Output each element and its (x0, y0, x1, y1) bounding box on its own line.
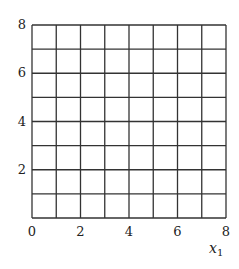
x-tick-label: 4 (125, 224, 133, 239)
y-tick-label: 6 (18, 65, 26, 80)
x-tick-label: 2 (76, 224, 84, 239)
y-axis-ticks: 2468 (18, 17, 26, 177)
x-tick-label: 0 (28, 224, 36, 239)
grid-chart: 02468 2468 x1 (0, 0, 239, 269)
y-tick-label: 8 (18, 17, 26, 32)
grid-lines (32, 25, 226, 218)
y-tick-label: 4 (18, 114, 26, 129)
x-axis-ticks: 02468 (28, 224, 230, 239)
x-tick-label: 8 (222, 224, 230, 239)
x-axis-label: x1 (209, 240, 223, 258)
y-tick-label: 2 (18, 162, 26, 177)
x-tick-label: 6 (173, 224, 181, 239)
